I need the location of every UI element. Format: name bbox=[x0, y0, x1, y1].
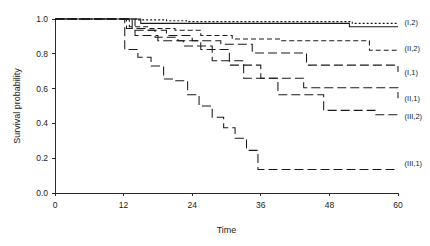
y-axis-title: Survival probability bbox=[12, 68, 22, 144]
kaplan-meier-chart: 0.00.20.40.60.81.0 01224364860 (I,2)(II,… bbox=[0, 0, 430, 246]
x-tick-label: 36 bbox=[256, 200, 266, 210]
y-tick-label: 1.0 bbox=[36, 14, 48, 24]
survival-curve-i1 bbox=[55, 19, 398, 72]
x-tick-label: 60 bbox=[393, 200, 403, 210]
y-tick-label: 0.8 bbox=[36, 49, 48, 59]
y-tick-label: 0.4 bbox=[36, 118, 48, 128]
x-tick-label: 48 bbox=[325, 200, 335, 210]
survival-curve-iii2 bbox=[55, 19, 398, 115]
y-axis-ticks: 0.00.20.40.60.81.0 bbox=[36, 14, 55, 198]
x-axis-title: Time bbox=[217, 225, 237, 235]
series-label-i1: (I,1) bbox=[405, 68, 419, 77]
y-tick-label: 0.6 bbox=[36, 84, 48, 94]
x-tick-label: 0 bbox=[53, 200, 58, 210]
series-label-ii2: (II,2) bbox=[405, 44, 421, 53]
series-labels: (I,2)(II,2)(I,1)(II,1)(III,2)(III,1) bbox=[405, 18, 423, 169]
survival-plot-container: 0.00.20.40.60.81.0 01224364860 (I,2)(II,… bbox=[0, 0, 430, 246]
y-tick-label: 0.0 bbox=[36, 188, 48, 198]
x-axis-ticks: 01224364860 bbox=[53, 193, 403, 210]
series-label-iii1: (III,1) bbox=[405, 159, 423, 168]
x-tick-label: 12 bbox=[119, 200, 129, 210]
survival-curve-i2 bbox=[55, 19, 398, 23]
y-tick-label: 0.2 bbox=[36, 153, 48, 163]
x-tick-label: 24 bbox=[187, 200, 197, 210]
survival-curve-ii1 bbox=[55, 19, 398, 98]
series-label-i2: (I,2) bbox=[405, 18, 419, 27]
series-label-iii2: (III,2) bbox=[405, 112, 423, 121]
series-label-ii1: (II,1) bbox=[405, 94, 421, 103]
survival-curve-i2-solid-overlay bbox=[55, 19, 398, 27]
survival-curve-iii1 bbox=[55, 19, 398, 170]
survival-curves bbox=[55, 19, 398, 170]
